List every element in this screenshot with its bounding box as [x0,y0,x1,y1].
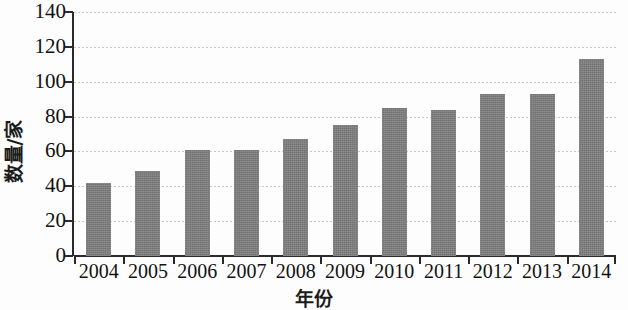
y-tick-label: 20 [22,210,66,231]
gridline [74,12,616,13]
bar-2008 [283,139,308,256]
x-tick-label: 2004 [74,259,123,283]
x-tick-label: 2014 [567,259,616,283]
bar-2007 [234,150,259,256]
y-tick-label: 60 [22,140,66,161]
y-tick-mark [65,81,73,83]
bar-2009 [333,125,358,256]
x-tick-label: 2013 [517,259,566,283]
x-tick-label: 2006 [173,259,222,283]
bar-2013 [530,94,555,256]
plot-area [74,12,616,256]
y-tick-mark [65,150,73,152]
y-tick-mark [65,11,73,13]
y-tick-label: 40 [22,175,66,196]
x-axis-title: 年份 [0,284,628,310]
bar-chart: 数量/家 020406080100120140 2004200520062007… [0,0,628,310]
y-tick-label: 0 [22,245,66,266]
y-tick-label: 100 [22,71,66,92]
x-tick-label: 2005 [123,259,172,283]
y-tick-mark [65,220,73,222]
y-tick-mark [65,255,73,257]
x-tick-label: 2010 [370,259,419,283]
y-tick-mark [65,185,73,187]
y-tick-mark [65,116,73,118]
y-tick-label: 120 [22,36,66,57]
gridline [74,82,616,83]
x-tick-label: 2011 [419,259,468,283]
y-tick-mark [65,46,73,48]
bar-2012 [480,94,505,256]
bar-2014 [579,59,604,256]
bar-2004 [86,183,111,256]
gridline [74,47,616,48]
bar-2006 [185,150,210,256]
x-tick-label: 2009 [320,259,369,283]
x-tick-label: 2007 [222,259,271,283]
x-tick-label: 2008 [271,259,320,283]
bar-2011 [431,110,456,256]
y-tick-label: 80 [22,106,66,127]
y-tick-label: 140 [22,1,66,22]
y-axis-tick-labels: 020406080100120140 [20,0,66,310]
bar-2005 [135,171,160,256]
x-axis-tick-labels: 2004200520062007200820092010201120122013… [74,259,616,285]
bar-2010 [382,108,407,256]
x-tick-label: 2012 [468,259,517,283]
